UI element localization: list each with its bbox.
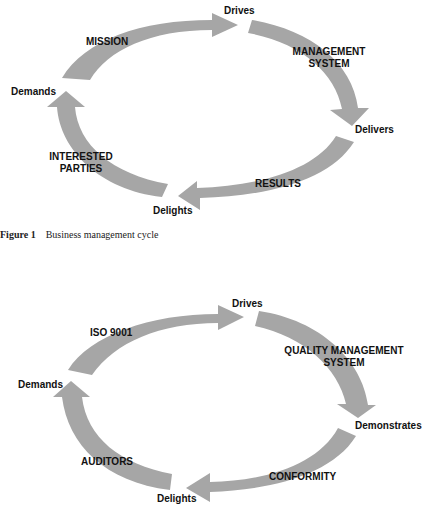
arrow-label-quality-management-system: QUALITY MANAGEMENT SYSTEM	[280, 345, 408, 369]
node-delivers: Delivers	[355, 124, 394, 136]
node-delights: Delights	[157, 493, 196, 505]
arrow-conformity	[186, 428, 356, 502]
arrow-label-mission: MISSION	[86, 36, 128, 48]
caption-text: Business management cycle	[46, 229, 159, 240]
figure-caption: Figure 1Business management cycle	[0, 229, 158, 240]
arrow-label-auditors: AUDITORS	[81, 456, 133, 468]
cycle-arrows	[0, 260, 424, 518]
arrow-auditors	[53, 381, 172, 490]
arrow-management-system	[248, 20, 369, 126]
node-drives: Drives	[224, 5, 255, 17]
arrow-interested-parties	[47, 91, 168, 197]
quality-management-cycle-figure: Drives Demonstrates Delights Demands ISO…	[0, 260, 424, 518]
node-demonstrates: Demonstrates	[355, 420, 422, 432]
arrow-label-conformity: CONFORMITY	[269, 471, 336, 483]
arrow-label-interested-parties: INTERESTED PARTIES	[46, 151, 116, 175]
arrow-label-management-system: MANAGEMENT SYSTEM	[290, 46, 368, 70]
arrow-iso-9001	[68, 305, 244, 375]
node-delights: Delights	[153, 205, 192, 217]
business-management-cycle-figure: Drives Delivers Delights Demands MISSION…	[0, 0, 424, 245]
arrow-results	[178, 136, 354, 210]
arrow-label-results: RESULTS	[255, 178, 301, 190]
cycle-arrows	[0, 0, 424, 230]
node-demands: Demands	[11, 86, 56, 98]
caption-number: Figure 1	[0, 229, 36, 240]
node-demands: Demands	[18, 379, 63, 391]
arrow-label-iso-9001: ISO 9001	[90, 327, 132, 339]
node-drives: Drives	[232, 298, 263, 310]
